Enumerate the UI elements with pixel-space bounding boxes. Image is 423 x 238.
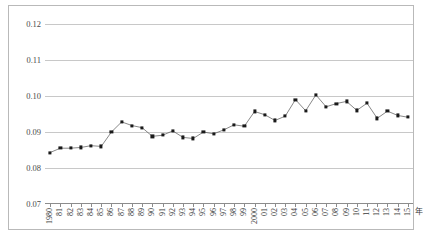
x-axis-tick-label: 07 — [322, 208, 330, 216]
x-axis-tick-label: 01 — [261, 208, 269, 216]
x-axis-tick-label: 04 — [291, 208, 299, 216]
data-point-marker — [396, 114, 399, 117]
data-point-marker — [273, 119, 276, 122]
data-point-marker — [192, 137, 195, 140]
data-point-marker — [243, 125, 246, 128]
y-axis-tick-label: 0.10 — [26, 92, 41, 101]
x-axis-tick-label: 85 — [97, 208, 105, 216]
chart-frame: 0.120.110.100.090.080.07 198081828384858… — [8, 5, 414, 230]
x-axis-tick-label: 87 — [118, 208, 126, 216]
data-point-marker — [120, 120, 123, 123]
data-point-marker — [406, 116, 409, 119]
data-point-marker — [253, 110, 256, 113]
x-axis-tick-label: 99 — [240, 208, 248, 216]
x-axis-tick-label: 95 — [199, 208, 207, 216]
x-axis-tick-label: 11 — [363, 208, 371, 216]
data-point-marker — [212, 132, 215, 135]
x-axis-tick-label: 86 — [107, 208, 115, 216]
x-axis-tick-label: 09 — [343, 208, 351, 216]
x-axis-tick-label: 94 — [189, 208, 197, 216]
y-axis-tick-label: 0.11 — [26, 56, 41, 65]
x-axis-tick-label: 98 — [230, 208, 238, 216]
x-axis-label-group: 1980818283848586878889909192939495969798… — [45, 204, 413, 238]
data-point-marker — [386, 110, 389, 113]
data-point-marker — [59, 147, 62, 150]
x-axis-tick-label: 02 — [271, 208, 279, 216]
data-point-marker — [376, 117, 379, 120]
x-axis-tick-label: 12 — [373, 208, 381, 216]
data-point-marker — [79, 146, 82, 149]
x-axis-tick-label: 90 — [148, 208, 156, 216]
y-axis-tick-label: 0.12 — [26, 20, 41, 29]
data-point-marker — [335, 102, 338, 105]
y-axis-tick-label: 0.08 — [26, 164, 41, 173]
data-point-marker — [304, 109, 307, 112]
x-axis-tick-label: 15 — [404, 208, 412, 216]
x-axis-tick-label: 93 — [179, 208, 187, 216]
data-point-marker — [233, 123, 236, 126]
data-point-marker — [365, 102, 368, 105]
data-point-marker — [345, 100, 348, 103]
data-point-marker — [325, 105, 328, 108]
x-axis-tick-label: 1980 — [46, 208, 54, 224]
data-point-marker — [181, 136, 184, 139]
y-axis-tick-label: 0.09 — [26, 128, 41, 137]
series-line-path — [45, 24, 413, 204]
data-point-marker — [202, 130, 205, 133]
x-axis-tick-label: 97 — [220, 208, 228, 216]
data-point-marker — [151, 135, 154, 138]
data-point-marker — [284, 115, 287, 118]
data-point-marker — [171, 129, 174, 132]
x-axis-unit-label: 年 — [415, 208, 423, 216]
x-axis-tick-label: 10 — [353, 208, 361, 216]
x-axis-tick-label: 03 — [281, 208, 289, 216]
data-point-marker — [222, 128, 225, 131]
y-axis-tick-label: 0.07 — [26, 200, 41, 209]
x-axis-tick-label: 83 — [77, 208, 85, 216]
data-point-marker — [100, 145, 103, 148]
x-axis-tick-label: 88 — [128, 208, 136, 216]
x-axis-tick-label: 92 — [169, 208, 177, 216]
x-axis-tick-label: 84 — [87, 208, 95, 216]
data-point-marker — [314, 93, 317, 96]
data-point-marker — [130, 124, 133, 127]
x-axis-tick-label: 2000 — [251, 208, 259, 224]
x-axis-tick-label: 05 — [302, 208, 310, 216]
x-axis-tick-label: 06 — [312, 208, 320, 216]
data-point-marker — [110, 130, 113, 133]
data-point-marker — [49, 151, 52, 154]
plot-area: 0.120.110.100.090.080.07 — [45, 24, 413, 204]
data-point-marker — [89, 144, 92, 147]
data-point-marker — [141, 126, 144, 129]
x-axis-tick-label: 82 — [67, 208, 75, 216]
x-axis-tick-label: 14 — [394, 208, 402, 216]
x-axis-tick-label: 89 — [138, 208, 146, 216]
data-point-marker — [355, 109, 358, 112]
data-point-marker — [161, 134, 164, 137]
x-axis-tick-label: 13 — [383, 208, 391, 216]
data-point-marker — [263, 113, 266, 116]
x-axis-tick-label: 08 — [332, 208, 340, 216]
data-point-marker — [294, 98, 297, 101]
x-axis-tick-label: 91 — [159, 208, 167, 216]
data-point-marker — [69, 147, 72, 150]
x-axis-tick-label: 96 — [210, 208, 218, 216]
x-axis-tick-label: 81 — [56, 208, 64, 216]
